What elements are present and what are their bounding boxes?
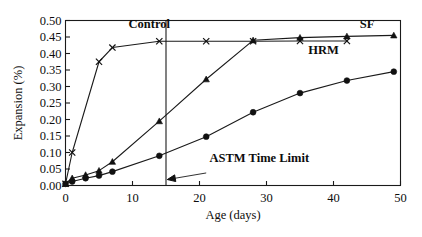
- x-tick-label: 20: [193, 191, 206, 205]
- marker-circle: [69, 179, 75, 185]
- marker-circle: [344, 78, 350, 84]
- x-tick-label: 0: [62, 191, 68, 205]
- y-tick-label: 0.10: [40, 146, 62, 160]
- y-tick-label: 0.00: [40, 179, 62, 193]
- x-tick-label: 50: [394, 191, 407, 205]
- y-tick-label: 0.05: [40, 162, 62, 176]
- x-tick-label: 30: [260, 191, 273, 205]
- y-tick-label: 0.35: [40, 63, 62, 77]
- marker-circle: [203, 134, 209, 140]
- astm-arrow-head: [167, 175, 175, 182]
- y-tick-label: 0.15: [40, 129, 62, 143]
- expansion-vs-age-chart: 0.000.050.100.150.200.250.300.350.400.45…: [0, 0, 422, 237]
- marker-circle: [96, 173, 102, 179]
- astm-time-limit-label: ASTM Time Limit: [210, 151, 310, 165]
- y-tick-label: 0.50: [40, 14, 62, 28]
- y-axis-title: Expansion (%): [11, 66, 25, 141]
- y-tick-label: 0.30: [40, 80, 62, 94]
- marker-circle: [83, 175, 89, 181]
- x-axis-title: Age (days): [205, 208, 260, 222]
- y-tick-label: 0.40: [40, 47, 62, 61]
- x-tick-label: 10: [126, 191, 139, 205]
- series-line-hrm: [66, 72, 394, 184]
- y-tick-label: 0.25: [40, 96, 62, 110]
- y-tick-label: 0.45: [40, 30, 62, 44]
- y-tick-label: 0.20: [40, 113, 62, 127]
- marker-circle: [250, 109, 256, 115]
- marker-circle: [391, 69, 397, 75]
- series-label-sf: SF: [360, 17, 375, 31]
- marker-circle: [63, 181, 69, 187]
- series-label-hrm: HRM: [308, 43, 339, 57]
- marker-circle: [297, 90, 303, 96]
- marker-circle: [110, 169, 116, 175]
- x-tick-label: 40: [327, 191, 340, 205]
- marker-circle: [156, 153, 162, 159]
- series-label-control: Control: [129, 17, 171, 31]
- chart-canvas: 0.000.050.100.150.200.250.300.350.400.45…: [0, 0, 422, 237]
